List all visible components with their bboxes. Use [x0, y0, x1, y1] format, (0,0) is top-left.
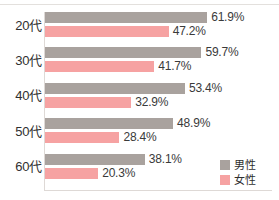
- legend-label-male: 男性: [234, 159, 256, 171]
- bar-value-label: 32.9%: [135, 96, 168, 109]
- legend-label-female: 女性: [234, 174, 256, 186]
- chart-legend: 男性 女性: [220, 158, 272, 188]
- x-axis-line: [44, 190, 272, 191]
- bar-male[interactable]: [45, 118, 173, 129]
- bar-row: 32.9%: [45, 97, 191, 108]
- bar-value-label: 59.7%: [205, 46, 238, 59]
- bar-row: 48.9%: [45, 118, 233, 129]
- bar-value-label: 47.2%: [173, 25, 206, 38]
- bar-female[interactable]: [45, 132, 119, 143]
- bar-row: 47.2%: [45, 26, 229, 37]
- bar-male[interactable]: [45, 47, 201, 58]
- bar-value-label: 28.4%: [123, 131, 156, 144]
- bar-row: 61.9%: [45, 12, 267, 23]
- bar-value-label: 41.7%: [158, 60, 191, 73]
- bar-male[interactable]: [45, 154, 145, 165]
- bar-female[interactable]: [45, 61, 154, 72]
- bar-value-label: 53.4%: [189, 82, 222, 95]
- category-label: 40代: [2, 89, 42, 102]
- bar-row: 28.4%: [45, 132, 179, 143]
- bar-row: 53.4%: [45, 83, 245, 94]
- bar-value-label: 20.3%: [102, 167, 135, 180]
- male-swatch-icon: [220, 160, 230, 170]
- bar-female[interactable]: [45, 168, 98, 179]
- category-label: 20代: [2, 19, 42, 32]
- legend-item-male[interactable]: 男性: [220, 158, 272, 172]
- category-label: 30代: [2, 54, 42, 67]
- bar-male[interactable]: [45, 83, 185, 94]
- top-divider: [0, 4, 279, 5]
- bar-female[interactable]: [45, 26, 169, 37]
- bar-row: 38.1%: [45, 154, 205, 165]
- legend-item-female[interactable]: 女性: [220, 173, 272, 187]
- category-label: 60代: [2, 160, 42, 173]
- bar-chart: 20代61.9%47.2%30代59.7%41.7%40代53.4%32.9%5…: [0, 0, 279, 200]
- bar-row: 59.7%: [45, 47, 261, 58]
- bar-value-label: 61.9%: [211, 11, 244, 24]
- bar-value-label: 38.1%: [149, 153, 182, 166]
- bar-row: 20.3%: [45, 168, 158, 179]
- bar-male[interactable]: [45, 12, 207, 23]
- bar-female[interactable]: [45, 97, 131, 108]
- bar-value-label: 48.9%: [177, 117, 210, 130]
- bar-row: 41.7%: [45, 61, 214, 72]
- female-swatch-icon: [220, 175, 230, 185]
- category-label: 50代: [2, 125, 42, 138]
